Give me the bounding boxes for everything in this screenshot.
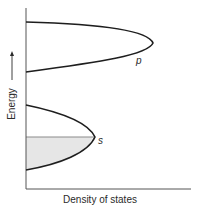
p-band-label: p: [135, 55, 142, 66]
arrow-up-icon: [10, 51, 14, 80]
s-band-label: s: [98, 135, 103, 146]
y-axis-label: Energy: [6, 88, 17, 120]
s-band-occupied-fill: [26, 137, 93, 170]
density-of-states-diagram: p s Energy Density of states: [0, 0, 197, 217]
x-axis-label: Density of states: [63, 194, 137, 205]
p-band-curve: [26, 22, 153, 72]
